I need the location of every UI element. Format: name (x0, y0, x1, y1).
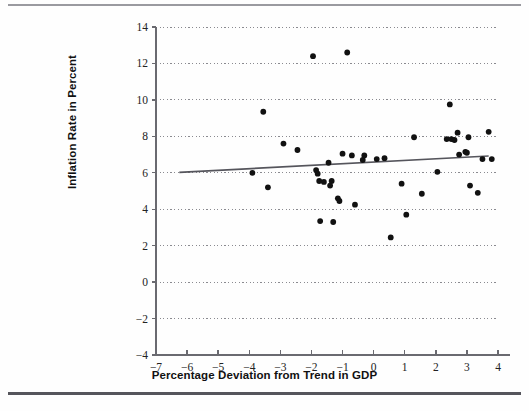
data-points (249, 50, 494, 241)
trend-line (179, 156, 488, 172)
svg-text:6: 6 (142, 167, 148, 179)
svg-text:−2: −2 (136, 313, 148, 325)
svg-text:0: 0 (142, 276, 148, 288)
svg-text:2: 2 (142, 240, 148, 252)
svg-text:−2: −2 (305, 361, 317, 373)
svg-text:−4: −4 (243, 361, 255, 373)
svg-text:−4: −4 (136, 349, 148, 361)
x-axis-ticks: −7−6−5−4−3−2−101234 (150, 350, 501, 373)
figure: Inflation Rate in Percent Percentage Dev… (0, 0, 529, 411)
svg-text:2: 2 (433, 361, 439, 373)
svg-text:−1: −1 (336, 361, 348, 373)
svg-text:−6: −6 (181, 361, 193, 373)
svg-text:1: 1 (402, 361, 408, 373)
y-axis-ticks: −4−202468101214 (136, 21, 156, 361)
axis-lines (156, 27, 510, 355)
svg-text:3: 3 (464, 361, 470, 373)
gridlines (156, 27, 498, 355)
svg-text:0: 0 (371, 361, 377, 373)
svg-text:8: 8 (142, 130, 148, 142)
svg-text:12: 12 (137, 57, 149, 69)
svg-text:10: 10 (137, 94, 149, 106)
svg-text:−3: −3 (274, 361, 286, 373)
scatter-plot-canvas: −4−202468101214 −7−6−5−4−3−2−101234 (0, 0, 529, 411)
svg-text:−5: −5 (212, 361, 224, 373)
svg-text:−7: −7 (150, 361, 162, 373)
svg-text:14: 14 (137, 21, 149, 33)
svg-text:4: 4 (142, 203, 148, 215)
svg-text:4: 4 (495, 361, 501, 373)
